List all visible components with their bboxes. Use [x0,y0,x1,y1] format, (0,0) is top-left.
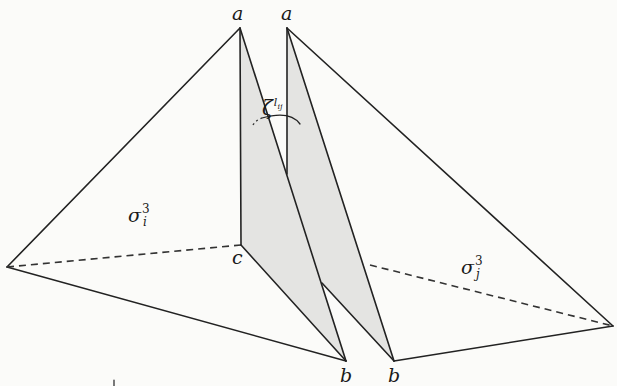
hidden-edge-left-outer-c [7,245,241,267]
vertex-label-c: c [232,248,243,267]
label-sigma-i: σ3i [128,206,151,225]
zeta-sub: ij [277,102,282,111]
sigma-j-sup: 3 [475,255,483,267]
sigma-j-sub: j [476,268,480,280]
label-zeta-angle: ζlij [262,98,281,120]
sigma-i-base: σ [128,204,141,226]
vertex-label-b-left: b [340,366,352,385]
sigma-i-sup: 3 [142,203,150,215]
zeta-base: ζ [262,96,273,120]
sigma-i-sub: i [143,216,147,228]
edge-a-c [240,28,241,245]
vertex-label-b-right: b [388,366,400,385]
hidden-edge-c2-right-outer [370,265,613,326]
edge-b-right-outer [394,326,613,361]
edge-a-left-outer [7,28,240,267]
vertex-label-a-left: a [232,4,243,23]
simplex-diagram [0,0,617,386]
sigma-j-base: σ [461,256,474,278]
vertex-label-a-right: a [281,4,292,23]
label-sigma-j: σ3j [461,258,484,277]
